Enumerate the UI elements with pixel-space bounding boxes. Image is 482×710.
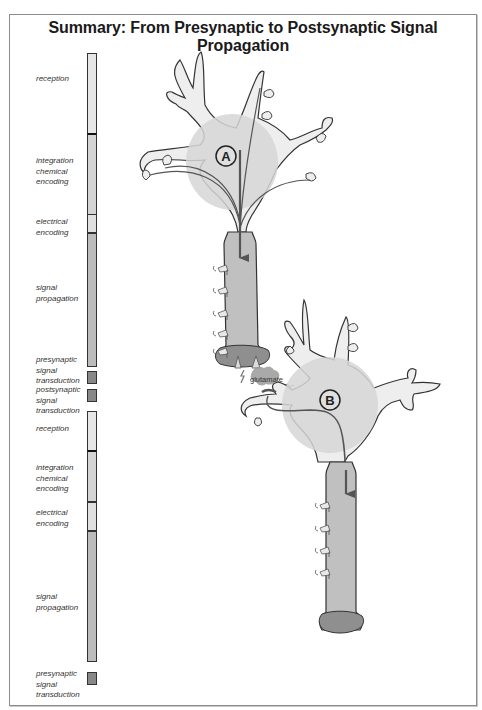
neuron-b-label: B (325, 393, 334, 408)
neuron-a-axon (221, 232, 264, 362)
postsynaptic-density (262, 390, 276, 392)
neuron-b-axon-terminal (319, 611, 363, 633)
neuron-b-axon (320, 462, 362, 630)
neuron-a-label: A (221, 149, 231, 164)
lightning-icon (241, 370, 244, 383)
neuron-b: B (241, 300, 440, 633)
synapse: glutamate (241, 366, 294, 387)
neuron-diagram: A glutamate B (0, 0, 482, 710)
